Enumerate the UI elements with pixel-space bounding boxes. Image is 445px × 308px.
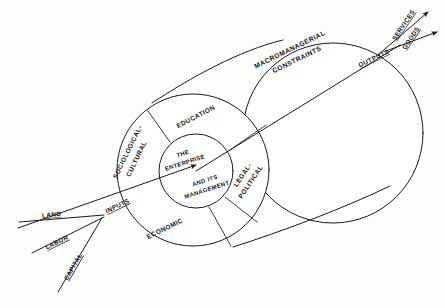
cylinder-back-face [243,43,423,223]
input-labels: LAND LABOR CAPITAL INPUTS [42,197,131,282]
input-label-capital: CAPITAL [62,252,83,281]
enterprise-systems-diagram: THE ENTERPRISE AND ITS MANAGEMENT SOCIOL… [0,0,445,308]
diagram-canvas: THE ENTERPRISE AND ITS MANAGEMENT SOCIOL… [0,0,445,308]
output-labels: OUTPUTS SERVICES GOODS [357,8,421,68]
input-label-labor: LABOR [44,233,69,250]
input-factor-lines [19,215,104,292]
input-label-land: LAND [42,210,62,219]
land-line [19,215,104,222]
labor-line [32,217,104,253]
